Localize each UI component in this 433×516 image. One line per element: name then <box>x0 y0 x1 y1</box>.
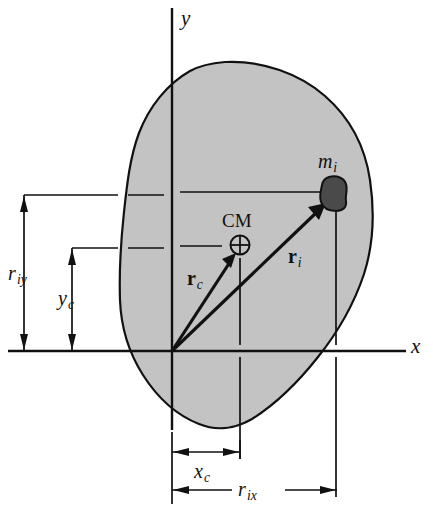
dimension-label-xc: xc <box>194 461 210 484</box>
dimension-riy-arrow-top <box>20 196 28 212</box>
dimension-riy-base: r <box>8 262 16 284</box>
physics-diagram-figure: y x CM mi rc ri riy yc xc rix <box>0 0 433 516</box>
vector-rc-base: r <box>187 267 196 289</box>
dimension-xc-sub: c <box>203 470 210 485</box>
dimension-xc-base: x <box>194 460 203 482</box>
particle-mass-sub: i <box>332 160 337 175</box>
vector-rc-label: rc <box>187 268 203 292</box>
dimension-yc-base: y <box>58 287 67 309</box>
dimension-rix-arrow-right <box>320 486 336 494</box>
vector-rc-sub: c <box>196 277 203 292</box>
dimension-yc-arrow-bottom <box>68 334 76 350</box>
dimension-rix-arrow-left <box>173 486 189 494</box>
x-axis-label: x <box>411 336 420 357</box>
dimension-yc-sub: c <box>67 297 74 312</box>
dimension-label-rix: rix <box>238 479 257 502</box>
diagram-canvas <box>0 0 433 516</box>
particle-mass-label: mi <box>318 151 337 175</box>
center-of-mass-label: CM <box>222 211 252 230</box>
dimension-riy-arrow-bottom <box>20 334 28 350</box>
vector-ri-label: ri <box>288 246 301 270</box>
y-axis-label: y <box>181 8 190 29</box>
vector-ri-base: r <box>288 245 297 267</box>
dimension-rix-sub: ix <box>246 488 257 503</box>
dimension-xc-arrow-right <box>223 448 239 456</box>
mass-particle-blob <box>320 176 347 211</box>
vector-ri-sub: i <box>297 255 302 270</box>
dimension-label-yc: yc <box>58 288 74 311</box>
particle-mass-base: m <box>318 150 332 172</box>
dimension-riy-sub: iy <box>16 272 27 287</box>
dimension-label-riy: riy <box>8 263 27 286</box>
dimension-rix-base: r <box>238 478 246 500</box>
dimension-yc-arrow-top <box>68 249 76 265</box>
dimension-xc-arrow-left <box>173 448 189 456</box>
